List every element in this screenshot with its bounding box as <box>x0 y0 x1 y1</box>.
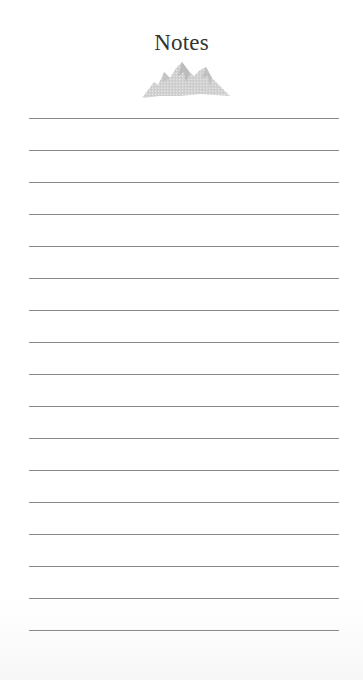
ruled-line <box>29 118 339 119</box>
ruled-line <box>29 182 339 183</box>
ruled-line <box>29 150 339 151</box>
ruled-line <box>29 438 339 439</box>
ruled-line <box>29 246 339 247</box>
ruled-line <box>29 374 339 375</box>
ruled-line <box>29 470 339 471</box>
ruled-line <box>29 406 339 407</box>
ruled-line <box>29 598 339 599</box>
ruled-line <box>29 310 339 311</box>
ruled-line <box>29 566 339 567</box>
ruled-line <box>29 502 339 503</box>
ruled-line <box>29 278 339 279</box>
ruled-line <box>29 214 339 215</box>
ruled-line <box>29 630 339 631</box>
ruled-line <box>29 342 339 343</box>
ruled-lines <box>29 0 339 680</box>
ruled-line <box>29 534 339 535</box>
notepad-page: Notes <box>0 0 363 680</box>
